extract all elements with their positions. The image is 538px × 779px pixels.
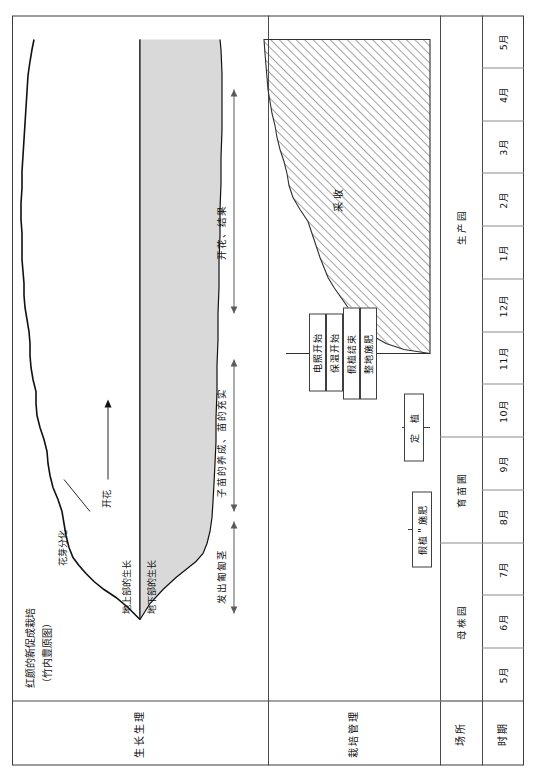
annotation-flowering-text: 开花 <box>102 489 112 507</box>
harvest-label-text: 采收 <box>333 185 344 211</box>
annotation-flower-bud: 花芽分化 <box>56 529 69 565</box>
phase-label-runner-text: 发出匍匐茎 <box>216 548 227 603</box>
management-box-lighting-start-label: 电照开始 <box>311 332 324 372</box>
place-cell: 母株园 <box>440 543 482 701</box>
place-grid-line <box>440 436 482 437</box>
place-grid-line <box>440 700 482 701</box>
above-ground-growth-label: 地上部的生长 <box>120 559 133 613</box>
place-cell: 生产园 <box>440 15 482 437</box>
month-cell: 9月 <box>482 437 524 490</box>
month-grid-line <box>482 436 524 437</box>
month-grid-line <box>482 278 524 279</box>
month-cell: 5月 <box>482 15 524 68</box>
figure-root: 生长生理 栽培管理 场所 时期 红颜的新促成栽培 （竹内豊原图） <box>0 0 538 779</box>
management-box-temporary-planting-label: 假植＂施肥 <box>416 504 429 554</box>
month-grid-line <box>482 120 524 121</box>
arrow-flower-fruit <box>231 89 238 313</box>
below-ground-growth-text: 地下部的生长 <box>147 559 157 613</box>
month-cell: 11月 <box>482 332 524 385</box>
management-box-land-prep[interactable]: 整地施肥 <box>360 307 377 399</box>
annotation-flower-bud-text: 花芽分化 <box>58 529 68 565</box>
management-box-temporary-planting[interactable]: 假植＂施肥 <box>412 491 432 567</box>
month-cell: 10月 <box>482 384 524 437</box>
management-box-temp-planting-end-label: 假植结束 <box>345 333 358 373</box>
month-grid-line <box>482 383 524 384</box>
place-cell: 育苗圃 <box>440 437 482 543</box>
month-grid-line <box>482 647 524 648</box>
month-grid-line <box>482 172 524 173</box>
month-cell: 4月 <box>482 68 524 121</box>
phase-label-seedling-text: 子苗的养成、苗的充实 <box>216 387 227 497</box>
harvest-area <box>264 39 430 353</box>
month-cell: 6月 <box>482 595 524 648</box>
management-box-planting-label: 定 植 <box>408 412 421 442</box>
management-box-temp-planting-end[interactable]: 假植结束 <box>343 307 360 399</box>
management-box-land-prep-label: 整地施肥 <box>362 333 375 373</box>
month-grid-line <box>482 225 524 226</box>
arrow-seedling-raising <box>231 359 238 511</box>
month-grid-line <box>482 594 524 595</box>
phase-label-runner: 发出匍匐茎 <box>214 548 228 603</box>
management-box-lighting-start[interactable]: 电照开始 <box>309 313 326 391</box>
month-grid-line <box>482 331 524 332</box>
management-box-insulation-start-label: 保温开始 <box>328 332 341 372</box>
phase-label-seedling: 子苗的养成、苗的充实 <box>214 387 228 497</box>
month-grid-line <box>482 542 524 543</box>
above-ground-growth-text: 地上部的生长 <box>122 559 132 613</box>
month-cell: 3月 <box>482 121 524 174</box>
annotation-flowering: 开花 <box>100 489 113 507</box>
place-grid-line <box>440 542 482 543</box>
month-grid-line <box>482 489 524 490</box>
harvest-label: 采收 <box>330 185 345 211</box>
month-cell: 8月 <box>482 490 524 543</box>
figure-sheet: 生长生理 栽培管理 场所 时期 红颜的新促成栽培 （竹内豊原图） <box>0 0 538 779</box>
below-ground-growth-label: 地下部的生长 <box>145 559 158 613</box>
month-cell: 1月 <box>482 226 524 279</box>
flowering-leader-arrow <box>105 399 112 407</box>
month-cell: 5月 <box>482 648 524 701</box>
month-cell: 7月 <box>482 543 524 596</box>
arrow-runner-emergence <box>231 521 238 613</box>
phase-label-flower-fruit-text: 开花、结果 <box>216 204 227 259</box>
above-ground-curve <box>21 39 140 619</box>
management-box-insulation-start[interactable]: 保温开始 <box>326 313 343 391</box>
month-cell: 2月 <box>482 173 524 226</box>
month-grid-line <box>482 67 524 68</box>
phase-label-flower-fruit: 开花、结果 <box>214 204 228 259</box>
month-cell: 12月 <box>482 279 524 332</box>
management-box-planting[interactable]: 定 植 <box>404 393 424 461</box>
